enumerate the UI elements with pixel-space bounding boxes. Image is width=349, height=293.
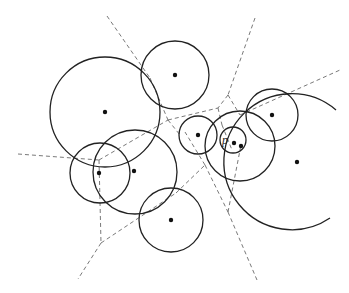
voronoi-diagram: p — [0, 0, 349, 293]
site-point — [97, 171, 101, 175]
voronoi-edge — [228, 145, 241, 212]
site-point — [270, 113, 274, 117]
site-point — [132, 169, 136, 173]
disk-circles — [50, 41, 298, 252]
voronoi-edge — [168, 108, 218, 120]
point-label-p: p — [221, 133, 228, 147]
site-point — [103, 110, 107, 114]
site-point — [239, 144, 243, 148]
voronoi-edge — [218, 95, 228, 108]
site-point — [232, 141, 236, 145]
voronoi-edge — [107, 16, 150, 78]
site-point — [295, 160, 299, 164]
site-point — [196, 133, 200, 137]
voronoi-edge — [240, 70, 340, 115]
voronoi-edge — [185, 132, 205, 165]
site-point — [169, 218, 173, 222]
large-arc — [224, 94, 336, 230]
voronoi-edge — [78, 243, 101, 279]
voronoi-edge — [18, 154, 99, 160]
voronoi-edge — [168, 120, 180, 135]
site-point — [173, 73, 177, 77]
voronoi-edges — [18, 16, 340, 280]
voronoi-edge — [228, 18, 255, 95]
voronoi-edge — [228, 212, 257, 280]
site-points — [97, 73, 299, 222]
